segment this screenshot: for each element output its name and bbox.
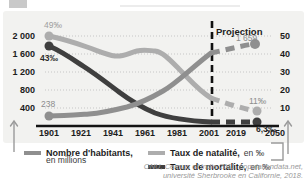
legend-swatch-natalite	[148, 151, 165, 155]
top-rule-decoration	[120, 5, 240, 7]
chart-root: 2 000 1 600 1 200 800 400 50 40 30 20 10…	[0, 0, 307, 188]
series-startpoint-natalite	[45, 32, 54, 41]
annotation-natalite-end: 11‰	[249, 96, 266, 106]
y-axis-right-tick-50: 50	[280, 31, 300, 41]
projection-label: Projection	[216, 26, 262, 37]
legend-sublabel-habitants: en millions	[46, 155, 86, 165]
y-axis-right-tick-30: 30	[280, 67, 300, 77]
y-axis-left-tick-1200: 1 200	[5, 67, 35, 77]
y-axis-left-tick-1600: 1 600	[5, 49, 35, 59]
legend-swatch-habitants	[24, 151, 41, 155]
y-axis-left-tick-2000: 2 000	[5, 31, 35, 41]
annotation-natalite-start: 49‰	[44, 20, 62, 30]
annotation-mortalite-start: 43‰	[40, 53, 58, 63]
annotation-habitants-start: 238	[41, 99, 55, 109]
y-axis-right-tick-40: 40	[280, 49, 300, 59]
source-credit: ONU, Census of India 2011, populationdat…	[103, 162, 303, 180]
y-axis-left-tick-800: 800	[5, 85, 35, 95]
source-line-2: université Sherbrooke en Californie, 201…	[103, 171, 303, 180]
series-line-natalite	[49, 36, 211, 98]
top-strip	[0, 0, 307, 11]
top-chip-decoration	[9, 0, 27, 8]
series-line-habitants-projection	[211, 44, 253, 53]
y-axis-right-tick-20: 20	[280, 85, 300, 95]
series-startpoint-mortalite	[45, 42, 54, 51]
source-line-1: ONU, Census of India 2011, populationdat…	[103, 162, 303, 171]
